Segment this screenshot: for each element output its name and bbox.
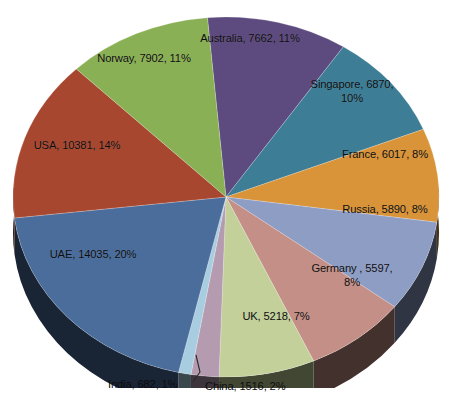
- slice-label-germany: Germany , 5597, 8%: [298, 262, 406, 289]
- slice-label-usa: USA, 10381, 14%: [18, 139, 136, 153]
- slice-label-china: China, 1516, 2%: [205, 380, 285, 392]
- slice-label-france: France, 6017, 8%: [330, 148, 440, 162]
- pie-chart: Norway, 7902, 11% Australia, 7662, 11% S…: [0, 0, 452, 412]
- slice-label-australia: Australia, 7662, 11%: [190, 32, 310, 46]
- slice-label-norway: Norway, 7902, 11%: [82, 52, 206, 66]
- slice-label-russia: Russia, 5890, 8%: [331, 203, 439, 217]
- slice-label-india: India, 682, 1%: [108, 378, 177, 390]
- slice-label-singapore: Singapore, 6870, 10%: [300, 78, 404, 105]
- slice-label-uk: UK, 5218, 7%: [224, 310, 328, 324]
- pie-wall-india: [178, 372, 190, 410]
- slice-label-uae: UAE, 14035, 20%: [32, 248, 154, 262]
